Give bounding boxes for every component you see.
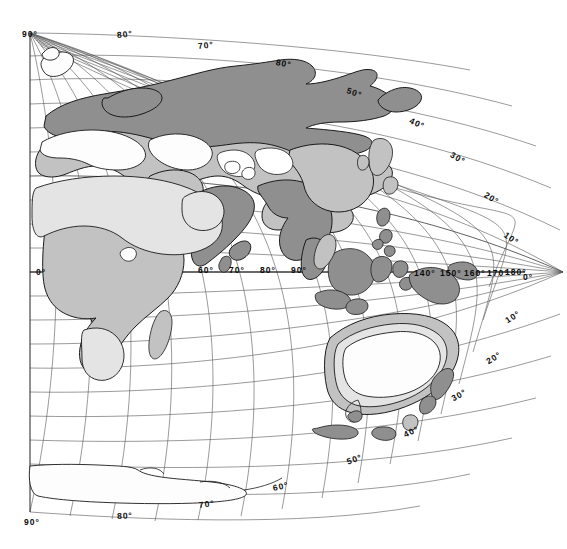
graticule-label: 90° — [22, 29, 38, 39]
graticule-label: 160° — [464, 268, 486, 278]
landmass-indonesia — [314, 234, 413, 314]
graticule-label: 90° — [24, 517, 40, 527]
graticule-label: 0° — [36, 267, 46, 277]
graticule-label: 180° — [505, 267, 527, 277]
landmass-australia — [325, 314, 459, 423]
landmass-korea — [357, 155, 369, 170]
landmass-philippines — [372, 208, 395, 256]
graticule-label: 80° — [260, 265, 276, 275]
graticule-label: 70° — [198, 498, 215, 510]
landmass-madagascar — [149, 310, 172, 358]
graticule-label: 90° — [291, 265, 307, 275]
landmass-arabia — [182, 192, 224, 231]
graticule-label: 150° — [440, 268, 462, 278]
world-map: 90° 80° 70° 80° 50° 40° 30° 20° 10° 0° 0… — [0, 0, 567, 549]
graticule-label: 60° — [198, 265, 214, 275]
graticule-label: 80° — [116, 28, 133, 40]
graticule-label: 70° — [229, 265, 245, 275]
graticule-label: 80° — [117, 510, 133, 521]
graticule-label: 70° — [197, 39, 214, 51]
graticule-label: 140° — [414, 268, 436, 278]
